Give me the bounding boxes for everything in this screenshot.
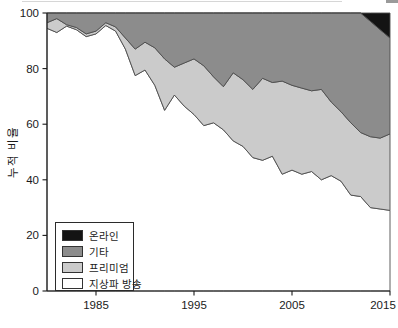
- legend-label-terrestrial: 지상파 방송: [89, 276, 142, 291]
- y-tick-label: 0: [33, 285, 39, 297]
- x-tick-label: 2005: [279, 299, 305, 311]
- x-tick-label: 1985: [83, 299, 109, 311]
- legend-swatch-terrestrial: [62, 278, 83, 289]
- legend-label-premium: 프리미엄: [89, 260, 129, 275]
- legend-item-online: 온라인: [62, 227, 133, 243]
- y-tick-label: 100: [20, 7, 39, 19]
- legend-label-other: 기타: [89, 244, 109, 259]
- x-tick-label: 1995: [181, 299, 207, 311]
- y-tick-label: 40: [26, 174, 39, 186]
- legend-swatch-premium: [62, 262, 83, 273]
- legend-swatch-online: [62, 230, 83, 241]
- figure: 0204060801001985199520052015 누적 비율 온라인 기…: [0, 0, 398, 328]
- legend-item-terrestrial: 지상파 방송: [62, 275, 133, 291]
- y-axis-title: 누적 비율: [4, 126, 20, 178]
- y-tick-label: 60: [26, 118, 39, 130]
- x-tick-label: 2015: [370, 299, 396, 311]
- legend-item-premium: 프리미엄: [62, 259, 133, 275]
- y-tick-label: 20: [26, 229, 39, 241]
- legend-item-other: 기타: [62, 243, 133, 259]
- legend: 온라인 기타 프리미엄 지상파 방송: [55, 222, 134, 291]
- y-tick-label: 80: [26, 63, 39, 75]
- legend-swatch-other: [62, 246, 83, 257]
- legend-label-online: 온라인: [89, 228, 119, 243]
